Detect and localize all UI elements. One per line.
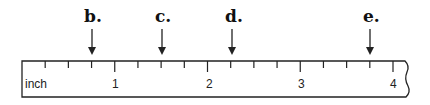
major-label-2: 2 xyxy=(206,77,213,91)
arrow-label-c: c. xyxy=(155,6,171,26)
unit-label: inch xyxy=(25,77,47,91)
arrow-label-b: b. xyxy=(84,6,102,26)
arrow-d: d. xyxy=(225,6,243,55)
ruler-outline xyxy=(22,61,409,97)
ruler-ticks xyxy=(45,61,393,72)
arrow-b: b. xyxy=(84,6,102,55)
arrow-label-d: d. xyxy=(225,6,243,26)
arrow-label-e: e. xyxy=(363,6,380,26)
arrow-e: e. xyxy=(363,6,380,55)
arrow-c: c. xyxy=(155,6,171,55)
major-label-4: 4 xyxy=(390,77,397,91)
arrowhead-icon xyxy=(158,47,166,55)
arrowhead-icon xyxy=(88,47,96,55)
arrowhead-icon xyxy=(366,47,374,55)
major-label-1: 1 xyxy=(112,77,119,91)
arrowhead-icon xyxy=(228,47,236,55)
ruler-diagram: inch 1 2 3 4 b. c. d. e. xyxy=(0,0,430,105)
major-label-3: 3 xyxy=(298,77,305,91)
